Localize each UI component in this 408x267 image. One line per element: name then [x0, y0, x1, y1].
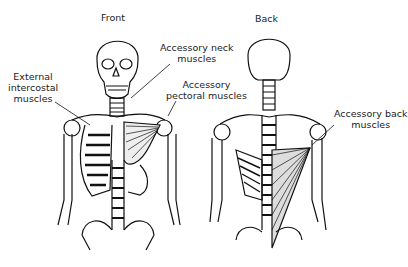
back-skeleton	[210, 39, 326, 248]
front-skeleton	[58, 41, 180, 250]
skeleton-illustration	[0, 0, 408, 267]
leader-lines	[55, 64, 334, 145]
